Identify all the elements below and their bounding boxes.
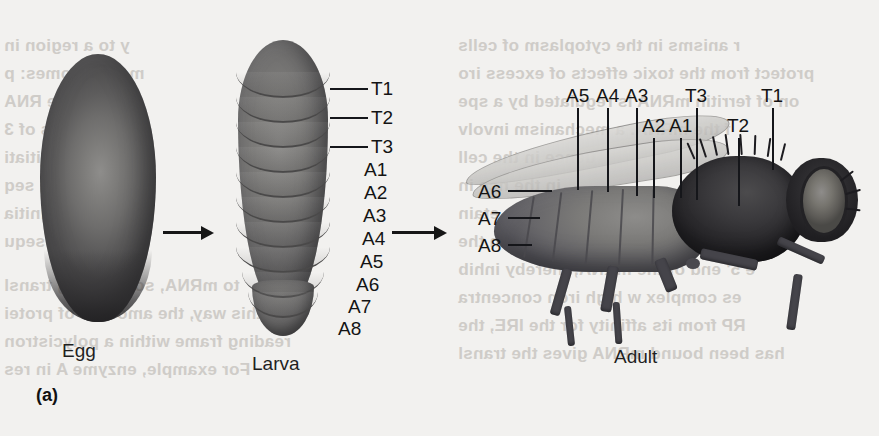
leg-mid-lower xyxy=(613,302,623,344)
bristle xyxy=(754,135,757,155)
leader-line-larva-t3 xyxy=(330,146,368,148)
bleed-text: reading frame within a polycistron xyxy=(4,332,291,352)
compound-eye xyxy=(800,166,848,236)
larva-label-t2: T2 xyxy=(371,108,393,127)
larva-label-a8: A8 xyxy=(338,319,361,338)
leader-line-adult-a1 xyxy=(680,138,682,198)
drosophila-development-figure: y to a region in me ribosomes: p uence R… xyxy=(0,0,879,436)
adult-label-a7: A7 xyxy=(478,209,501,228)
leader-line-adult-a7 xyxy=(508,217,540,219)
bleed-text: y to a region in xyxy=(4,36,130,56)
egg-shading xyxy=(44,250,152,322)
larva-label-a5: A5 xyxy=(360,252,383,271)
larva-segment-band xyxy=(236,247,330,273)
bleed-text: r anisms in the cytoplasm of cells xyxy=(458,36,740,56)
leader-line-adult-a5 xyxy=(577,108,579,190)
caption-larva: Larva xyxy=(252,353,300,375)
adult-label-a5: A5 xyxy=(566,86,589,105)
leader-line-larva-t2 xyxy=(330,117,368,119)
adult-label-t2: T2 xyxy=(727,116,749,135)
adult-label-a3: A3 xyxy=(625,86,648,105)
leader-line-adult-a2 xyxy=(653,138,655,198)
haltere xyxy=(686,258,700,269)
larva-label-a4: A4 xyxy=(362,229,385,248)
leg-front-lower xyxy=(786,274,803,331)
larva-label-a1: A1 xyxy=(364,160,387,179)
leader-line-larva-t1 xyxy=(330,88,368,90)
adult-label-a1: A1 xyxy=(669,116,692,135)
larva-label-a6: A6 xyxy=(356,275,379,294)
leader-line-adult-a4 xyxy=(607,108,609,192)
leader-line-adult-a3 xyxy=(636,108,638,196)
caption-adult: Adult xyxy=(614,346,657,368)
bleed-text: initia xyxy=(4,204,45,224)
panel-letter: (a) xyxy=(36,385,58,406)
larva-label-a3: A3 xyxy=(363,206,386,225)
leader-line-adult-t3 xyxy=(696,108,698,200)
bleed-text: In this way, the amounts of protei xyxy=(4,304,283,324)
larva-label-t1: T1 xyxy=(371,79,393,98)
caption-egg: Egg xyxy=(62,340,96,362)
bleed-text: protect from the toxic effects of excess… xyxy=(458,64,814,84)
leader-line-adult-a8 xyxy=(508,244,532,246)
bleed-text: es complex w high iron concentra xyxy=(458,288,742,308)
leader-line-adult-t2 xyxy=(738,138,740,206)
adult-label-t1: T1 xyxy=(761,86,783,105)
bleed-text: RP from its affinity for the IRE, the xyxy=(458,316,746,336)
adult-label-a2: A2 xyxy=(642,116,665,135)
bleed-text: For example, enzyme A in res xyxy=(4,360,250,380)
larva-label-t3: T3 xyxy=(371,137,393,156)
bristle xyxy=(780,143,786,161)
adult-label-t3: T3 xyxy=(685,86,707,105)
larva-label-a7: A7 xyxy=(348,297,371,316)
adult-label-a6: A6 xyxy=(478,182,501,201)
adult-label-a8: A8 xyxy=(478,236,501,255)
adult-label-a4: A4 xyxy=(596,86,619,105)
leg-hind-lower xyxy=(564,306,575,347)
leader-line-adult-a6 xyxy=(508,190,552,192)
larva-label-a2: A2 xyxy=(364,183,387,202)
leader-line-adult-t1 xyxy=(772,108,774,170)
bristle xyxy=(767,138,772,157)
